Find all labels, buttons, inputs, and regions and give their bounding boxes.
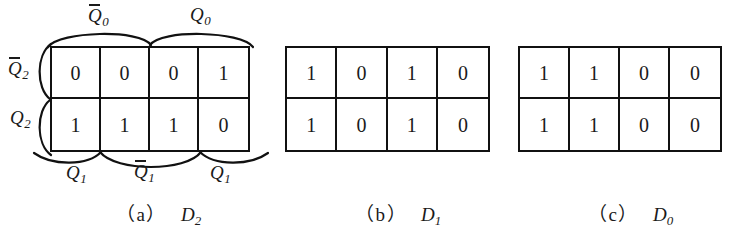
kmap-cell: 0 [438, 99, 488, 150]
caption-function-subscript: 1 [435, 213, 441, 228]
caption-function: D0 [653, 204, 673, 225]
kmap-cell: 1 [287, 99, 337, 150]
left-label-q2: Q2 [10, 108, 31, 131]
kmap-cell: 1 [570, 48, 620, 99]
label-subscript: 2 [22, 67, 28, 82]
kmap-cell: 1 [520, 99, 570, 150]
label-base: Q [190, 4, 204, 25]
caption-d1: （b）D1 [355, 205, 441, 228]
overbar-wrap: Q [134, 161, 148, 181]
kmap-grid-d2: 0 0 0 1 1 1 1 0 [50, 46, 250, 152]
kmap-cell: 0 [620, 48, 670, 99]
kmap-cell: 0 [150, 48, 199, 99]
top-label-q0-bar: Q0 [88, 5, 109, 29]
kmap-cell: 1 [150, 99, 199, 150]
kmap-cell: 0 [199, 99, 248, 150]
left-label-q2-bar: Q2 [8, 58, 29, 82]
kmap-cell: 1 [287, 48, 337, 99]
bottom-label-q1-bar: Q1 [134, 161, 155, 185]
kmap-cell: 0 [670, 48, 720, 99]
caption-tag: （a） [116, 204, 167, 225]
label-base: Q [8, 58, 22, 79]
kmap-grid-d0: 1 1 0 0 1 1 0 0 [518, 46, 722, 152]
label-subscript: 1 [224, 171, 230, 186]
label-base: Q [10, 107, 24, 128]
kmap-cell: 0 [438, 48, 488, 99]
caption-function-base: D [181, 204, 195, 225]
kmap-cell: 0 [101, 48, 150, 99]
kmap-cell: 1 [52, 99, 101, 150]
caption-function-base: D [421, 204, 435, 225]
caption-d0: （c）D0 [588, 205, 673, 228]
kmap-cell: 1 [570, 99, 620, 150]
label-base: Q [134, 161, 148, 182]
caption-function-subscript: 2 [195, 213, 201, 228]
karnaugh-map-figure: Q0 Q0 Q2 Q2 Q1 Q1 Q1 0 0 0 1 1 1 1 0 1 0… [0, 0, 732, 249]
bottom-label-q1-left: Q1 [66, 163, 87, 186]
label-base: Q [88, 5, 102, 26]
kmap-cell: 0 [337, 99, 387, 150]
overbar-wrap: Q [8, 58, 22, 78]
bottom-label-q1-right: Q1 [210, 163, 231, 186]
label-subscript: 0 [204, 13, 210, 28]
caption-d2: （a）D2 [116, 205, 201, 228]
caption-function: D1 [421, 204, 441, 225]
label-subscript: 2 [24, 116, 30, 131]
kmap-grid-d1: 1 0 1 0 1 0 1 0 [285, 46, 490, 152]
top-label-q0: Q0 [190, 5, 211, 28]
kmap-cell: 1 [388, 99, 438, 150]
kmap-cell: 1 [520, 48, 570, 99]
caption-function-base: D [653, 204, 667, 225]
label-base: Q [66, 162, 80, 183]
overbar-wrap: Q [88, 5, 102, 25]
kmap-cell: 1 [388, 48, 438, 99]
caption-function-subscript: 0 [667, 213, 673, 228]
kmap-cell: 0 [52, 48, 101, 99]
label-subscript: 1 [80, 171, 86, 186]
caption-tag: （b） [355, 204, 407, 225]
kmap-cell: 1 [101, 99, 150, 150]
caption-tag: （c） [588, 204, 639, 225]
kmap-cell: 1 [199, 48, 248, 99]
kmap-cell: 0 [670, 99, 720, 150]
label-subscript: 1 [148, 170, 154, 185]
label-base: Q [210, 162, 224, 183]
kmap-cell: 0 [337, 48, 387, 99]
label-subscript: 0 [102, 14, 108, 29]
caption-function: D2 [181, 204, 201, 225]
kmap-cell: 0 [620, 99, 670, 150]
